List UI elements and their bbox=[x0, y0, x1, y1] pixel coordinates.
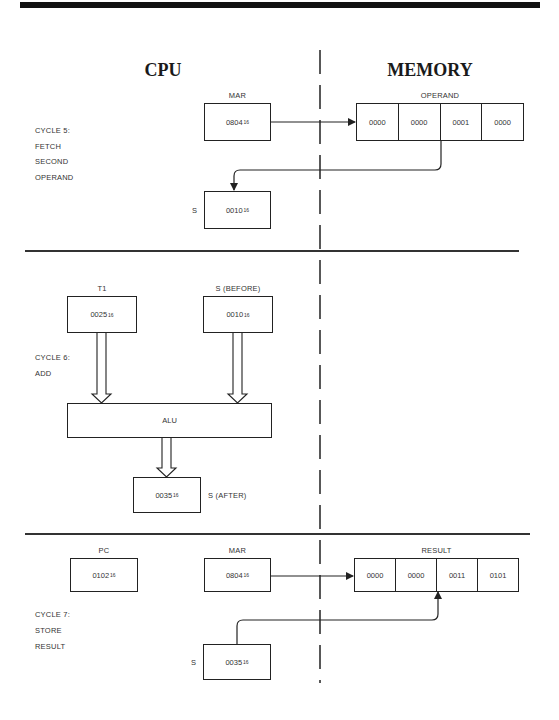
cycle-7-label: CYCLE 7: bbox=[35, 610, 70, 619]
operand-cell: 0000 bbox=[357, 104, 398, 140]
cycle-6-label: CYCLE 6: bbox=[35, 353, 70, 362]
operand-cell: 0001 bbox=[440, 104, 482, 140]
hex-subscript: 16 bbox=[243, 659, 249, 665]
cycle-5-desc-3: OPERAND bbox=[35, 173, 74, 182]
section-divider-1 bbox=[25, 250, 519, 252]
result-cell: 0101 bbox=[477, 559, 518, 591]
operand-memory-word: 0000 0000 0001 0000 bbox=[356, 103, 524, 141]
hex-subscript: 16 bbox=[244, 207, 250, 213]
s-value: 0035 bbox=[225, 658, 242, 667]
cycle-5-label: CYCLE 5: bbox=[35, 126, 70, 135]
pc-register: 010216 bbox=[70, 558, 138, 592]
s-before-value: 0010 bbox=[226, 310, 243, 319]
mar-register: 080416 bbox=[204, 558, 271, 592]
cycle-7-desc-2: RESULT bbox=[35, 642, 65, 651]
s-register: 001016 bbox=[204, 191, 271, 229]
t1-label: T1 bbox=[67, 284, 137, 293]
cycle-6-desc-1: ADD bbox=[35, 369, 51, 378]
s-value: 0010 bbox=[226, 206, 243, 215]
hex-subscript: 16 bbox=[173, 492, 179, 498]
hex-subscript: 16 bbox=[110, 572, 116, 578]
s-register: 003516 bbox=[203, 644, 271, 680]
operand-label: OPERAND bbox=[356, 91, 524, 100]
result-cell: 0000 bbox=[355, 559, 395, 591]
mar-value: 0804 bbox=[226, 118, 243, 127]
s-register-label: S bbox=[192, 206, 197, 215]
cycle-7-desc-1: STORE bbox=[35, 626, 62, 635]
result-cell: 0000 bbox=[395, 559, 436, 591]
s-after-label: S (AFTER) bbox=[208, 491, 246, 500]
result-label: RESULT bbox=[354, 546, 519, 555]
operand-cell: 0000 bbox=[481, 104, 523, 140]
mar-label: MAR bbox=[204, 91, 271, 100]
s-after-register: 003516 bbox=[133, 477, 201, 513]
mar-label: MAR bbox=[204, 546, 271, 555]
section-divider-2 bbox=[25, 533, 530, 535]
t1-value: 0025 bbox=[90, 310, 107, 319]
hex-subscript: 16 bbox=[244, 572, 250, 578]
hex-subscript: 16 bbox=[244, 119, 250, 125]
mar-register: 080416 bbox=[204, 103, 271, 141]
alu-block: ALU bbox=[67, 403, 272, 438]
cycle-5-desc-1: FETCH bbox=[35, 142, 61, 151]
pc-label: PC bbox=[70, 546, 138, 555]
s-before-register: 001016 bbox=[203, 296, 273, 333]
cycle-5-desc-2: SECOND bbox=[35, 157, 68, 166]
operand-cell: 0000 bbox=[398, 104, 440, 140]
result-cell: 0011 bbox=[436, 559, 477, 591]
hex-subscript: 16 bbox=[244, 312, 250, 318]
alu-label: ALU bbox=[162, 416, 177, 425]
result-memory-word: 0000 0000 0011 0101 bbox=[354, 558, 519, 592]
hex-subscript: 16 bbox=[108, 312, 114, 318]
pc-value: 0102 bbox=[92, 571, 109, 580]
s-after-value: 0035 bbox=[155, 491, 172, 500]
mar-value: 0804 bbox=[226, 571, 243, 580]
t1-register: 002516 bbox=[67, 296, 137, 333]
s-before-label: S (BEFORE) bbox=[203, 284, 273, 293]
s-register-label: S bbox=[191, 658, 196, 667]
